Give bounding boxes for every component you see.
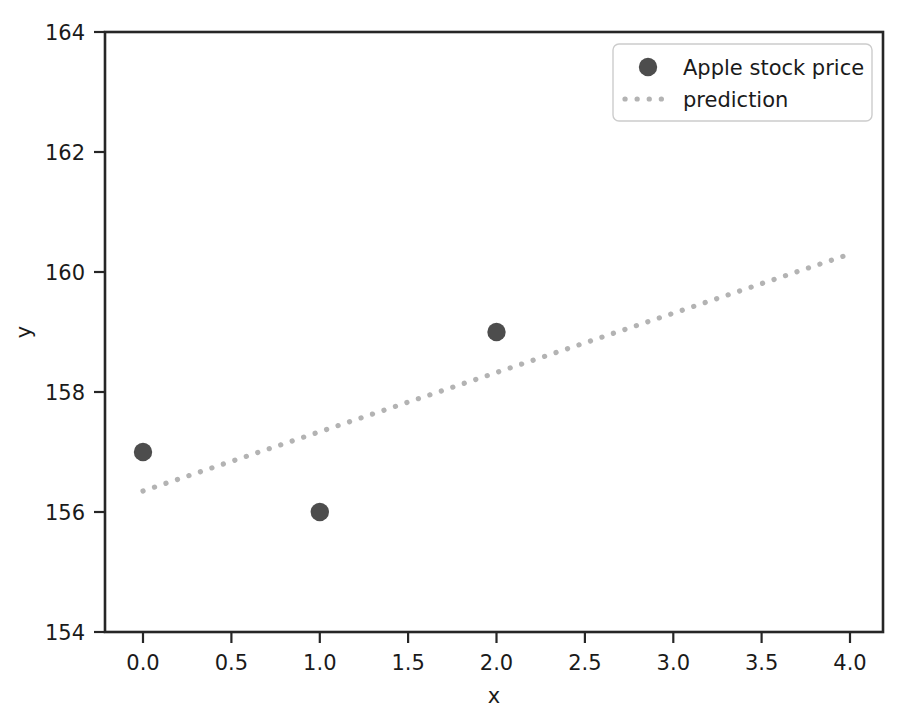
x-tick-label: 2.5 xyxy=(568,651,601,675)
x-tick-label: 4.0 xyxy=(833,651,866,675)
y-tick-label: 164 xyxy=(45,21,85,45)
y-tick-label: 158 xyxy=(45,381,85,405)
x-tickmarks xyxy=(143,632,850,643)
data-point xyxy=(487,323,505,341)
figure-canvas: 0.0 0.5 1.0 1.5 2.0 2.5 3.0 3.5 4.0 154 … xyxy=(0,0,902,716)
legend-marker-circle-icon xyxy=(639,58,657,76)
y-tick-label: 156 xyxy=(45,501,85,525)
y-tickmarks xyxy=(94,32,105,632)
x-tick-label: 0.0 xyxy=(126,651,159,675)
x-tick-label: 2.0 xyxy=(480,651,513,675)
x-tick-label: 3.0 xyxy=(657,651,690,675)
x-tick-label: 1.0 xyxy=(303,651,336,675)
y-tick-label: 160 xyxy=(45,261,85,285)
y-axis-title: y xyxy=(12,326,36,338)
chart-svg: 0.0 0.5 1.0 1.5 2.0 2.5 3.0 3.5 4.0 154 … xyxy=(0,0,902,716)
x-tick-label: 3.5 xyxy=(745,651,778,675)
y-tick-label: 154 xyxy=(45,621,85,645)
data-point xyxy=(134,443,152,461)
legend-label-apple-stock-price: Apple stock price xyxy=(683,56,864,80)
x-axis-title: x xyxy=(488,684,500,708)
x-tick-label: 1.5 xyxy=(391,651,424,675)
x-tick-labels: 0.0 0.5 1.0 1.5 2.0 2.5 3.0 3.5 4.0 xyxy=(126,651,866,675)
data-point xyxy=(311,503,329,521)
chart-legend: Apple stock price prediction xyxy=(613,44,872,121)
y-tick-labels: 154 156 158 160 162 164 xyxy=(45,21,85,645)
legend-label-prediction: prediction xyxy=(683,88,788,112)
x-tick-label: 0.5 xyxy=(215,651,248,675)
y-tick-label: 162 xyxy=(45,141,85,165)
